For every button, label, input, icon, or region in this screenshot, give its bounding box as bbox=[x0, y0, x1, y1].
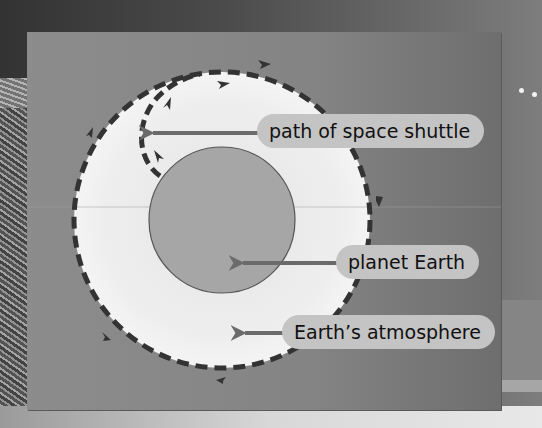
label-planet-earth: planet Earth bbox=[336, 245, 479, 279]
planet-earth-circle bbox=[149, 147, 295, 293]
label-path-of-space-shuttle: path of space shuttle bbox=[257, 114, 484, 148]
label-earths-atmosphere: Earth’s atmosphere bbox=[282, 315, 495, 349]
orbit-diagram bbox=[0, 0, 542, 428]
